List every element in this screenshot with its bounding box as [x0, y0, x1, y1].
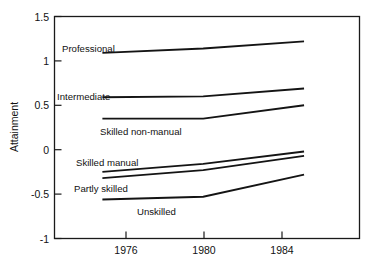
series-line-unskilled	[102, 175, 304, 200]
series-label-skilled-non-manual: Skilled non-manual	[100, 126, 182, 137]
series-line-intermediate	[102, 88, 304, 97]
series-line-professional	[102, 41, 304, 53]
y-tick-label-5: -1	[40, 233, 49, 245]
x-axis-tick-labels: 1976 1980 1984	[114, 244, 294, 256]
series-label-intermediate: Intermediate	[57, 91, 110, 102]
series-label-professional: Professional	[62, 43, 115, 54]
series-label-unskilled: Unskilled	[137, 206, 176, 217]
series-label-skilled-manual: Skilled manual	[76, 157, 138, 168]
y-tick-label-0: 1.5	[34, 11, 49, 23]
x-axis-ticks	[126, 232, 282, 239]
y-tick-label-3: 0	[43, 144, 49, 156]
series-label-partly-skilled: Partly skilled	[74, 183, 128, 194]
chart-svg: 1.5 1 0.5 0 -0.5 -1 1976 1980 1984 Attai…	[0, 0, 376, 264]
series-lines-group	[102, 41, 304, 199]
x-tick-label-0: 1976	[114, 244, 138, 256]
y-tick-label-4: -0.5	[31, 188, 49, 200]
attainment-line-chart: 1.5 1 0.5 0 -0.5 -1 1976 1980 1984 Attai…	[0, 0, 376, 264]
y-axis-ticks	[55, 17, 62, 239]
series-labels-group: ProfessionalIntermediateSkilled non-manu…	[57, 43, 182, 217]
y-axis-title: Attainment	[8, 102, 20, 152]
y-tick-label-1: 1	[43, 55, 49, 67]
x-tick-label-2: 1984	[270, 244, 294, 256]
y-tick-label-2: 0.5	[34, 99, 49, 111]
series-line-skilled-non-manual	[102, 105, 304, 118]
x-tick-label-1: 1980	[192, 244, 216, 256]
y-axis-tick-labels: 1.5 1 0.5 0 -0.5 -1	[31, 11, 49, 245]
